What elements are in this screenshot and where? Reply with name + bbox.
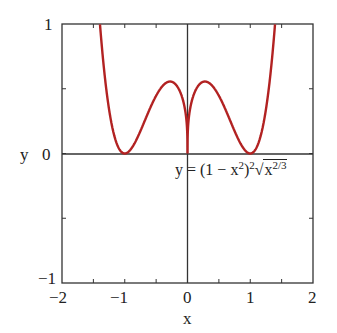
x-tick-label-1: 1	[246, 289, 255, 306]
x-tick-label-2: 2	[308, 289, 317, 306]
radical-sign: √	[255, 161, 264, 178]
y-tick-label-1: 1	[44, 16, 53, 33]
x-axis-label: x	[183, 310, 192, 327]
y-tick-label-0: 0	[42, 146, 51, 163]
radicand: x2/3	[263, 159, 286, 178]
eq-part: y = (1 − x	[175, 161, 238, 178]
y-axis-label: y	[20, 146, 29, 163]
equation-annotation: y = (1 − x2)2√x2/3	[175, 159, 287, 178]
y-tick-label-neg1: −1	[38, 270, 56, 287]
x-tick-label-neg2: −2	[49, 289, 67, 306]
eq-exp: 2/3	[272, 159, 286, 171]
x-tick-label-0: 0	[183, 289, 192, 306]
x-tick-label-neg1: −1	[110, 289, 128, 306]
